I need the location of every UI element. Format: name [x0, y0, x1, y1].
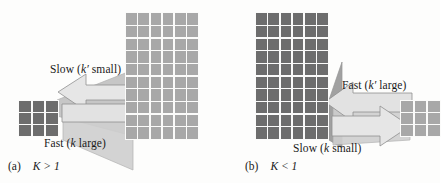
grid-cell	[293, 26, 304, 37]
panel-b-caption-expression: K < 1	[270, 160, 297, 172]
grid-cell	[187, 115, 198, 126]
grid-cell	[256, 26, 267, 37]
grid-cell	[317, 115, 328, 126]
grid-cell	[126, 115, 137, 126]
grid-cell	[33, 101, 45, 111]
grid-cell	[305, 89, 316, 100]
grid-cell	[401, 125, 413, 135]
grid-cell	[256, 51, 267, 62]
grid-cell	[293, 115, 304, 126]
grid-cell	[281, 102, 292, 113]
grid-cell	[138, 77, 149, 88]
grid-cell	[151, 102, 162, 113]
grid-cell	[151, 26, 162, 37]
grid-cell	[256, 64, 267, 75]
grid-cell	[175, 26, 186, 37]
grid-cell	[33, 125, 45, 135]
panel-b-slow-label: Slow (k small)	[293, 142, 362, 155]
grid-cell	[126, 64, 137, 75]
grid-cell	[19, 101, 31, 111]
panel-b-large-grid	[255, 12, 329, 140]
grid-cell	[268, 51, 279, 62]
grid-cell	[415, 125, 427, 135]
panel-b-fast-label: Fast (k′ large)	[342, 79, 407, 92]
grid-cell	[415, 101, 427, 111]
panel-b-small-grid	[400, 100, 441, 137]
grid-cell	[256, 89, 267, 100]
grid-cell	[187, 13, 198, 24]
grid-cell	[268, 39, 279, 50]
grid-cell	[281, 115, 292, 126]
grid-cell	[256, 102, 267, 113]
grid-cell	[175, 115, 186, 126]
grid-cell	[281, 77, 292, 88]
grid-cell	[305, 26, 316, 37]
grid-cell	[19, 113, 31, 123]
grid-cell	[268, 102, 279, 113]
grid-cell	[163, 89, 174, 100]
grid-cell	[151, 39, 162, 50]
grid-cell	[126, 39, 137, 50]
grid-cell	[256, 13, 267, 24]
grid-cell	[256, 115, 267, 126]
grid-cell	[268, 77, 279, 88]
grid-cell	[256, 77, 267, 88]
panel-a-caption-expression: K > 1	[33, 160, 60, 172]
grid-cell	[187, 39, 198, 50]
grid-cell	[46, 125, 58, 135]
grid-cell	[305, 77, 316, 88]
grid-cell	[19, 125, 31, 135]
grid-cell	[138, 115, 149, 126]
panel-a-caption: (a)K > 1	[8, 160, 60, 172]
grid-cell	[187, 89, 198, 100]
grid-cell	[293, 13, 304, 24]
grid-cell	[281, 89, 292, 100]
grid-cell	[428, 113, 440, 123]
grid-cell	[428, 125, 440, 135]
grid-cell	[268, 64, 279, 75]
grid-cell	[163, 77, 174, 88]
grid-cell	[268, 115, 279, 126]
grid-cell	[138, 39, 149, 50]
grid-cell	[175, 127, 186, 138]
grid-cell	[293, 89, 304, 100]
grid-cell	[175, 13, 186, 24]
panel-a-fast-label: Fast (k large)	[44, 137, 106, 150]
grid-cell	[126, 77, 137, 88]
grid-cell	[305, 13, 316, 24]
grid-cell	[163, 39, 174, 50]
grid-cell	[305, 127, 316, 138]
grid-cell	[317, 26, 328, 37]
grid-cell	[281, 51, 292, 62]
grid-cell	[305, 51, 316, 62]
grid-cell	[175, 64, 186, 75]
grid-cell	[187, 127, 198, 138]
grid-cell	[138, 51, 149, 62]
grid-cell	[187, 26, 198, 37]
grid-cell	[256, 39, 267, 50]
grid-cell	[138, 13, 149, 24]
panel-a-small-grid	[18, 100, 59, 137]
grid-cell	[33, 113, 45, 123]
grid-cell	[163, 51, 174, 62]
grid-cell	[317, 89, 328, 100]
panel-b-caption: (b)K < 1	[245, 160, 297, 172]
grid-cell	[305, 102, 316, 113]
grid-cell	[163, 13, 174, 24]
grid-cell	[293, 77, 304, 88]
grid-cell	[281, 39, 292, 50]
grid-cell	[163, 64, 174, 75]
grid-cell	[415, 113, 427, 123]
grid-cell	[46, 101, 58, 111]
grid-cell	[163, 102, 174, 113]
grid-cell	[163, 26, 174, 37]
grid-cell	[187, 77, 198, 88]
grid-cell	[293, 64, 304, 75]
panel-b-vector-layer	[220, 0, 440, 183]
grid-cell	[151, 77, 162, 88]
grid-cell	[293, 39, 304, 50]
panel-a-caption-tag: (a)	[8, 160, 21, 172]
grid-cell	[151, 64, 162, 75]
grid-cell	[305, 39, 316, 50]
grid-cell	[175, 89, 186, 100]
